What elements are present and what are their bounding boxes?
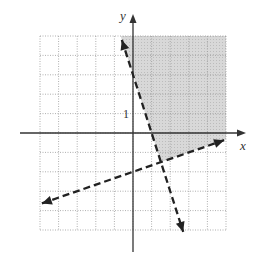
inequality-graph: y x 1 bbox=[0, 0, 256, 266]
y-axis-label: y bbox=[118, 8, 126, 23]
shaded-region bbox=[121, 36, 226, 162]
y-tick-label: 1 bbox=[123, 107, 129, 121]
x-axis-label: x bbox=[239, 138, 246, 153]
